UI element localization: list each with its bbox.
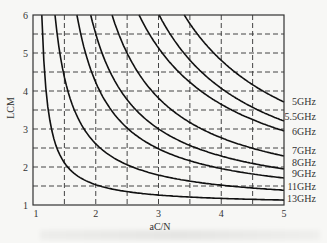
y-tick-label: 6: [23, 10, 28, 21]
caption-blur: [40, 230, 320, 240]
series-label: 7GHz: [292, 145, 316, 156]
x-axis-ticks: 12345: [34, 208, 287, 219]
chart: 123456 12345 5GHz5.5GHz6GHz7GHz8GHz9GHz1…: [0, 0, 327, 243]
curve-11ghz: [55, 15, 284, 190]
series-label: 6GHz: [292, 126, 316, 137]
curve-6ghz: [139, 15, 284, 131]
x-tick-label: 1: [34, 208, 39, 219]
series-label: 5GHz: [292, 96, 316, 107]
series-label: 5.5GHz: [285, 111, 317, 122]
series-label: 8GHz: [292, 157, 316, 168]
y-axis-label: LCM: [5, 97, 16, 119]
y-tick-label: 1: [23, 200, 28, 211]
y-tick-label: 5: [23, 48, 28, 59]
x-tick-label: 4: [219, 208, 224, 219]
x-tick-label: 3: [156, 208, 161, 219]
y-tick-label: 3: [23, 124, 28, 135]
x-tick-label: 2: [93, 208, 98, 219]
series-label: 11GHz: [287, 181, 316, 192]
series-labels: 5GHz5.5GHz6GHz7GHz8GHz9GHz11GHz13GHz: [285, 96, 317, 204]
curve-13ghz: [42, 15, 284, 200]
series-label: 9GHz: [292, 168, 316, 179]
y-axis-ticks: 123456: [23, 10, 28, 211]
x-tick-label: 5: [282, 208, 287, 219]
curves: [42, 15, 284, 200]
y-tick-label: 2: [23, 162, 28, 173]
grid-lines: [33, 15, 284, 205]
y-tick-label: 4: [23, 86, 28, 97]
series-label: 13GHz: [287, 193, 316, 204]
